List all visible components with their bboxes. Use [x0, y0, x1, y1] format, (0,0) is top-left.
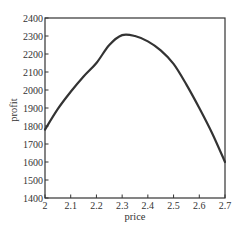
y-tick-label: 2000	[23, 85, 43, 96]
y-tick-label: 1500	[23, 175, 43, 186]
profit-curve	[45, 34, 225, 162]
plot-frame	[45, 18, 225, 198]
profit-vs-price-chart: 22.12.22.32.42.52.62.7 14001500160017001…	[0, 0, 242, 234]
x-axis-ticks: 22.12.22.32.42.52.62.7	[43, 195, 232, 212]
y-tick-label: 1800	[23, 121, 43, 132]
y-tick-label: 2100	[23, 67, 43, 78]
x-tick-label: 2.1	[64, 200, 77, 211]
y-tick-label: 2200	[23, 49, 43, 60]
x-axis-label: price	[125, 211, 146, 222]
x-tick-label: 2.3	[116, 200, 129, 211]
x-tick-label: 2.7	[219, 200, 232, 211]
y-axis-label: profit	[8, 98, 19, 121]
y-tick-label: 1900	[23, 103, 43, 114]
x-tick-label: 2.4	[142, 200, 155, 211]
y-tick-label: 1400	[23, 193, 43, 204]
x-tick-label: 2.5	[167, 200, 180, 211]
y-tick-label: 2400	[23, 13, 43, 24]
x-tick-label: 2.6	[193, 200, 206, 211]
y-tick-label: 2300	[23, 31, 43, 42]
x-tick-label: 2	[43, 200, 48, 211]
y-tick-label: 1600	[23, 157, 43, 168]
y-tick-label: 1700	[23, 139, 43, 150]
x-tick-label: 2.2	[90, 200, 103, 211]
